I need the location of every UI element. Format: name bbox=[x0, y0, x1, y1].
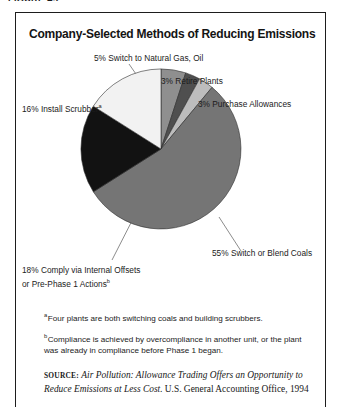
footnotes: aFour plants are both switching coals an… bbox=[44, 310, 316, 363]
pie-label-switch-blend-coals: 55% Switch or Blend Coals bbox=[212, 248, 312, 259]
footnote-a-text: Four plants are both switching coals and… bbox=[48, 314, 263, 323]
pie-label-switch-gas-oil: 5% Switch to Natural Gas, Oil bbox=[94, 53, 203, 64]
pie-label-internal-offsets-line2: or Pre-Phase 1 Actions bbox=[22, 278, 107, 288]
pie-label-internal-offsets: 18% Comply via Internal Offsets or Pre-P… bbox=[22, 265, 140, 289]
pie-chart: 5% Switch to Natural Gas, Oil 3% Retire … bbox=[16, 51, 325, 303]
footnote-b-marker: b bbox=[44, 333, 47, 339]
footnote-b: bCompliance is achieved by overcomplianc… bbox=[44, 331, 316, 356]
footnote-marker-b: b bbox=[107, 278, 110, 284]
figure-title: Company-Selected Methods of Reducing Emi… bbox=[29, 27, 315, 41]
pie-label-purchase-allowances: 3% Purchase Allowances bbox=[198, 99, 291, 110]
source-citation: source: Air Pollution: Allowance Trading… bbox=[44, 369, 320, 395]
figure-box: Company-Selected Methods of Reducing Emi… bbox=[15, 12, 326, 407]
pie-label-internal-offsets-line1: 18% Comply via Internal Offsets bbox=[22, 265, 140, 275]
pie-label-retire-plants: 3% Retire Plants bbox=[161, 76, 223, 87]
running-head: FIGURE 4.2 bbox=[8, 0, 61, 1]
footnote-a: aFour plants are both switching coals an… bbox=[44, 310, 316, 324]
footnote-a-marker: a bbox=[44, 312, 47, 318]
pie-label-install-scrubber: 16% Install Scrubbera bbox=[22, 101, 102, 114]
footnote-marker-a: a bbox=[99, 103, 102, 109]
source-label: source: bbox=[44, 371, 79, 380]
pie-label-install-scrubber-text: 16% Install Scrubber bbox=[22, 104, 99, 114]
footnote-b-text: Compliance is achieved by overcompliance… bbox=[44, 335, 301, 355]
pie-graphic bbox=[78, 66, 244, 232]
source-publisher: U.S. General Accounting Office, 1994 bbox=[163, 384, 309, 394]
